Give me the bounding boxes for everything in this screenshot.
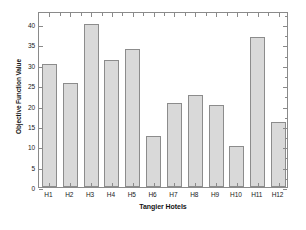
x-tick-mark-top [216,13,217,17]
y-minor-tick-mark-right [285,179,287,180]
y-tick-label: 25 [28,83,35,90]
x-minor-tick-mark-top [60,13,61,16]
plot-area [38,12,288,188]
y-tick-label: 15 [28,123,35,130]
bar [104,60,119,187]
y-tick-mark-right [283,87,287,88]
x-minor-tick-mark-top [164,13,165,16]
x-tick-label: H10 [230,191,242,198]
y-tick-mark [39,128,43,129]
x-tick-label: H8 [190,191,198,198]
y-tick-mark [39,87,43,88]
y-tick-label: 5 [31,164,35,171]
y-tick-mark-right [283,128,287,129]
bar [250,37,265,187]
x-tick-mark [49,183,50,187]
x-minor-tick-mark-top [206,13,207,16]
y-tick-mark-right [283,148,287,149]
y-tick-mark [39,108,43,109]
x-minor-tick-mark-top [185,13,186,16]
x-tick-label: H6 [149,191,157,198]
y-tick-mark-right [283,46,287,47]
bar [167,103,182,187]
x-minor-tick-mark-top [247,13,248,16]
x-tick-mark [216,183,217,187]
x-tick-label: H11 [251,191,262,198]
x-tick-mark [70,183,71,187]
x-minor-tick-mark-top [143,13,144,16]
y-tick-mark-right [283,169,287,170]
x-tick-label: H12 [272,191,284,198]
x-tick-mark [154,183,155,187]
x-tick-label: H4 [107,191,115,198]
x-minor-tick-mark-top [227,13,228,16]
x-tick-mark [91,183,92,187]
y-tick-label: 10 [28,144,35,151]
x-tick-mark-top [154,13,155,17]
x-axis-tick-labels: H1H2H3H4H5H6H7H8H9H10H11H12 [38,191,288,202]
x-axis-title: Tangier Hotels [38,203,288,210]
x-tick-mark-top [258,13,259,17]
y-minor-tick-mark-right [285,158,287,159]
x-tick-mark-top [237,13,238,17]
x-tick-mark-top [174,13,175,17]
figure-canvas: 0510152025303540 Objective Function Valu… [0,0,306,230]
y-tick-mark-right [283,67,287,68]
y-tick-mark-right [283,108,287,109]
x-tick-mark-top [112,13,113,17]
x-tick-mark-top [279,13,280,17]
x-tick-mark [174,183,175,187]
x-tick-mark-top [49,13,50,17]
y-axis-title: Objective Function Value [15,32,22,162]
bar [229,146,244,187]
y-tick-mark [39,46,43,47]
x-tick-mark [133,183,134,187]
x-tick-label: H3 [86,191,94,198]
bar [188,95,203,187]
x-tick-mark [112,183,113,187]
y-tick-label: 35 [28,42,35,49]
x-tick-mark [237,183,238,187]
bar [84,24,99,187]
y-minor-tick-mark-right [285,97,287,98]
y-minor-tick-mark-right [285,16,287,17]
bar [146,136,161,187]
x-tick-label: H7 [169,191,177,198]
x-minor-tick-mark-top [81,13,82,16]
x-tick-mark [258,183,259,187]
x-tick-label: H9 [211,191,219,198]
y-tick-mark-right [283,189,287,190]
bar [271,122,286,187]
y-tick-mark [39,148,43,149]
x-tick-mark-top [91,13,92,17]
y-tick-mark [39,67,43,68]
y-tick-mark [39,189,43,190]
x-tick-label: H2 [65,191,73,198]
x-tick-mark-top [195,13,196,17]
bar [209,105,224,187]
y-minor-tick-mark-right [285,77,287,78]
bar [125,49,140,187]
y-tick-label: 30 [28,62,35,69]
x-tick-mark [279,183,280,187]
y-minor-tick-mark-right [285,118,287,119]
x-tick-mark-top [70,13,71,17]
y-tick-label: 20 [28,103,35,110]
y-tick-label: 40 [28,22,35,29]
y-minor-tick-mark-right [285,138,287,139]
y-tick-mark-right [283,26,287,27]
x-tick-label: H5 [128,191,136,198]
y-tick-mark [39,169,43,170]
x-tick-mark [195,183,196,187]
bar [63,83,78,187]
bars-layer [39,13,287,187]
x-tick-mark-top [133,13,134,17]
x-minor-tick-mark-top [268,13,269,16]
y-minor-tick-mark-right [285,36,287,37]
x-minor-tick-mark-top [122,13,123,16]
y-tick-mark [39,26,43,27]
bar [42,64,57,187]
y-tick-label: 0 [31,185,35,192]
y-minor-tick-mark-right [285,57,287,58]
x-minor-tick-mark-top [102,13,103,16]
